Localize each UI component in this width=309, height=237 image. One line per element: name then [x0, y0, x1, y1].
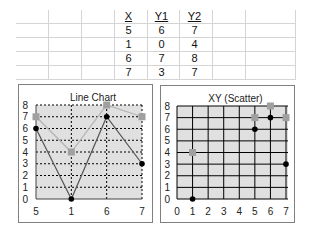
table-cell[interactable]: 5 [112, 23, 145, 37]
table-cell[interactable]: 7 [145, 51, 178, 65]
series-y2-marker [283, 114, 290, 121]
y-tick-label: 3 [164, 159, 170, 170]
x-tick-label: 0 [174, 206, 180, 217]
series-y1-marker [139, 161, 145, 167]
y-tick-label: 7 [164, 112, 170, 123]
x-tick-label: 1 [190, 206, 196, 217]
header-x[interactable]: X [112, 9, 145, 23]
table-cell[interactable]: 8 [178, 51, 211, 65]
y-tick-label: 1 [164, 182, 170, 193]
series-y2-marker [267, 103, 274, 110]
table-cell[interactable]: 3 [145, 65, 178, 79]
y-tick-label: 5 [164, 135, 170, 146]
scatter-chart[interactable]: XY (Scatter)01234567801234567 [160, 85, 295, 223]
y-tick-label: 6 [164, 124, 170, 135]
table-cell[interactable]: 7 [178, 65, 211, 79]
series-y1-marker [104, 114, 110, 120]
y-tick-label: 6 [22, 123, 28, 134]
series-y2-marker [189, 149, 196, 156]
scatter-chart-canvas: XY (Scatter)01234567801234567 [161, 86, 294, 222]
x-tick-label: 6 [268, 206, 274, 217]
y-tick-label: 8 [22, 100, 28, 111]
header-y1[interactable]: Y1 [145, 9, 178, 23]
table-cell[interactable]: 4 [178, 37, 211, 51]
grid-col-line [48, 10, 49, 80]
x-tick-label: 3 [221, 206, 227, 217]
x-tick-label: 6 [104, 206, 110, 217]
table-cell[interactable]: 1 [112, 37, 145, 51]
series-y1-marker [190, 196, 196, 202]
series-y1-marker [252, 126, 258, 132]
series-y1-marker [33, 126, 39, 132]
grid-col-line [295, 10, 296, 80]
y-tick-label: 7 [22, 111, 28, 122]
series-y2-marker [139, 113, 146, 120]
y-tick-label: 1 [22, 182, 28, 193]
table-cell[interactable]: 6 [112, 51, 145, 65]
y-tick-label: 0 [164, 194, 170, 205]
table-cell[interactable]: 6 [145, 23, 178, 37]
series-y2-marker [33, 113, 40, 120]
spreadsheet: X Y1 Y2 5 6 7 1 0 4 6 7 8 7 3 7 Line Cha… [0, 0, 309, 237]
line-chart[interactable]: Line Chart0123456785167 [18, 84, 153, 223]
y-tick-label: 2 [22, 170, 28, 181]
grid-col-line [212, 10, 213, 80]
grid-row-line [16, 79, 296, 80]
y-tick-label: 0 [22, 194, 28, 205]
y-tick-label: 8 [164, 101, 170, 112]
series-y1-marker [69, 196, 75, 202]
chart-title: XY (Scatter) [208, 93, 262, 104]
y-tick-label: 5 [22, 135, 28, 146]
line-chart-canvas: Line Chart0123456785167 [19, 85, 152, 222]
series-y2-marker [68, 149, 75, 156]
x-tick-label: 1 [69, 206, 75, 217]
series-y1-marker [283, 161, 289, 167]
x-tick-label: 5 [252, 206, 258, 217]
x-tick-label: 4 [237, 206, 243, 217]
header-y2[interactable]: Y2 [178, 9, 211, 23]
grid-col-line [245, 10, 246, 80]
y-tick-label: 4 [164, 147, 170, 158]
table-cell[interactable]: 7 [178, 23, 211, 37]
table-cell[interactable]: 7 [112, 65, 145, 79]
chart-title: Line Chart [70, 92, 116, 103]
x-tick-label: 2 [205, 206, 211, 217]
x-tick-label: 5 [33, 206, 39, 217]
y-tick-label: 4 [22, 147, 28, 158]
table-cell[interactable]: 0 [145, 37, 178, 51]
y-tick-label: 2 [164, 170, 170, 181]
series-y1-marker [268, 115, 274, 121]
y-tick-label: 3 [22, 158, 28, 169]
grid-col-line [81, 10, 82, 80]
x-tick-label: 7 [139, 206, 145, 217]
series-y2-marker [103, 102, 110, 109]
x-tick-label: 7 [283, 206, 289, 217]
series-y2-marker [251, 114, 258, 121]
